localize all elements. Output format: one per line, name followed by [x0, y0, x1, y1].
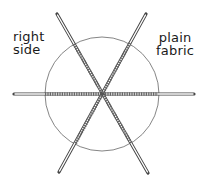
center-point [100, 92, 104, 96]
label-plain-fabric-line2: fabric [156, 44, 194, 57]
label-right-side: right side [13, 30, 45, 56]
spoke-circle-diagram [0, 0, 209, 181]
label-right-side-line2: side [13, 43, 45, 56]
label-plain-fabric: plain fabric [156, 31, 194, 57]
